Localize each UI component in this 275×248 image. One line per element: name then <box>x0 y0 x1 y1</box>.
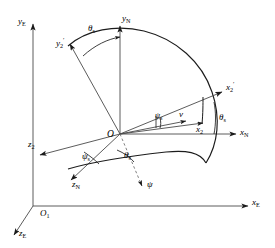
label-x-n: xN <box>240 128 248 137</box>
coordinate-frame-rotation-figure: yE xE zE O1 yN xN zN O y2′ x2′ x2 z2 v θ… <box>0 0 275 248</box>
label-o-1: O1 <box>40 209 50 218</box>
label-psi-left: ψs <box>82 152 90 161</box>
arc-x2-to-x2prime <box>202 97 203 124</box>
body-frame-connector-arc <box>202 97 203 124</box>
label-psi-s: ψs <box>155 112 162 120</box>
axis-y-2-prime <box>70 44 120 134</box>
angle-arc-theta-right <box>214 102 216 134</box>
label-y-2-prime: y2′ <box>56 39 65 48</box>
psi-dashed-line <box>120 134 142 186</box>
axis-x-2-prime <box>120 92 222 134</box>
label-theta-top: θs <box>88 24 95 33</box>
angle-arc-theta-top <box>83 37 120 56</box>
label-z-n: zN <box>72 180 80 189</box>
great-circle-arc <box>68 28 217 163</box>
label-v-vector: v <box>179 110 183 119</box>
label-x-2: x2 <box>196 125 203 134</box>
label-theta-right: θs <box>219 113 226 122</box>
psi-dashed-line-group <box>120 134 142 186</box>
label-x-2-prime: x2′ <box>226 83 235 92</box>
angle-arcs <box>83 37 216 164</box>
arc-upper <box>68 28 217 163</box>
axis-z-n <box>71 134 120 180</box>
label-psi-plain: ψ <box>147 180 153 189</box>
label-z-2: z2 <box>28 140 35 149</box>
label-o-origin: O <box>107 130 114 140</box>
label-theta-lower: θs <box>124 151 131 160</box>
label-y-e: yE <box>18 17 26 26</box>
label-y-n: yN <box>122 14 130 23</box>
nav-frame-axes <box>71 26 236 180</box>
label-x-e: xE <box>252 198 260 207</box>
label-z-e: zE <box>19 229 26 238</box>
vector-v <box>120 121 186 134</box>
body-frame-axes <box>40 44 222 155</box>
